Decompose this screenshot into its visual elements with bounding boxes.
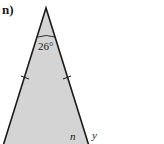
part-label: n) xyxy=(2,2,14,18)
interior-angle-variable: n xyxy=(70,130,76,142)
exterior-angle-variable: y xyxy=(92,129,97,141)
isosceles-triangle xyxy=(3,8,89,144)
triangle-diagram xyxy=(0,0,164,144)
apex-angle-label: 26° xyxy=(38,40,53,52)
